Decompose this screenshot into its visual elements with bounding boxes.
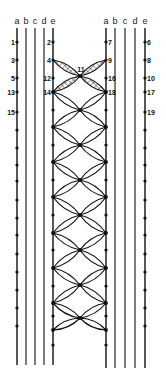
pin-dot (143, 179, 146, 182)
ground-petal (80, 180, 106, 197)
pin-dot (15, 163, 18, 166)
ground-pattern (53, 60, 106, 330)
pin-dot (51, 90, 55, 94)
pin-dot (51, 178, 54, 181)
pin-dot (104, 266, 108, 270)
thread-label: b (23, 16, 28, 26)
hatched-petal (53, 76, 80, 92)
pin-dot (51, 195, 55, 199)
pin-dot (143, 324, 146, 327)
pin-dot (143, 163, 146, 166)
ground-petal (80, 127, 106, 145)
pin-dot (15, 233, 18, 236)
pin-dot (15, 288, 18, 291)
pin-number: 4 (47, 57, 51, 64)
thread-label: e (50, 16, 55, 26)
ground-petal (53, 268, 80, 285)
ground-petal (53, 110, 80, 127)
pin-dot (78, 316, 82, 320)
pin-dot (51, 248, 54, 251)
ground-petal (80, 318, 106, 330)
pin-dot (78, 178, 82, 182)
pin-dot (143, 252, 146, 255)
pin-dot (15, 252, 18, 255)
ground-petal (80, 92, 106, 110)
pin-number: 9 (108, 57, 112, 64)
ground-petal (80, 110, 106, 127)
pin-dot (51, 213, 54, 216)
ground-petal (53, 162, 80, 180)
ground-petal (80, 233, 106, 250)
ground-petal (53, 197, 80, 215)
pin-number: 15 (7, 109, 15, 116)
pin-number: 6 (147, 39, 151, 46)
ground-petal (53, 127, 80, 145)
ground-petal (53, 92, 80, 110)
pin-dot (15, 90, 18, 93)
pin-dot (104, 301, 108, 305)
pin-number: 11 (77, 66, 85, 73)
thread-label: e (142, 16, 147, 26)
pin-dot (51, 284, 54, 287)
pin-dot (15, 40, 18, 43)
thread-label: c (123, 16, 128, 26)
ground-petal (53, 285, 80, 303)
pin-number: 13 (7, 89, 15, 96)
pin-number: 19 (147, 109, 155, 116)
pin-dot (51, 125, 55, 129)
ground-petal (80, 303, 106, 318)
pin-dot (104, 213, 107, 216)
ground-petal (80, 145, 106, 162)
pin-dot (78, 108, 82, 112)
pin-dot (51, 301, 55, 305)
labels: abcdeabcde13513152412147916186810171911 (7, 16, 155, 116)
pin-dot (15, 146, 18, 149)
pin-number: 17 (147, 89, 155, 96)
pin-dot (15, 58, 18, 61)
pin-dot (51, 143, 54, 146)
pin-dot (104, 195, 108, 199)
pin-dot (51, 40, 54, 43)
pin-dot (104, 160, 108, 164)
pin-dot (15, 306, 18, 309)
pin-number: 8 (147, 57, 151, 64)
pin-number: 5 (11, 75, 15, 82)
pin-dot (104, 231, 108, 235)
pin-dot (15, 179, 18, 182)
pin-dot (104, 314, 107, 317)
pin-dot (78, 283, 82, 287)
thread-label: d (132, 16, 137, 26)
pin-dot (143, 146, 146, 149)
pin-dot (143, 128, 146, 131)
ground-petal (80, 215, 106, 233)
pin-dot (143, 288, 146, 291)
pin-dot (104, 284, 107, 287)
hatched-petal (53, 60, 80, 76)
pin-dot (143, 233, 146, 236)
lace-pricking-diagram: abcdeabcde13513152412147916186810171911 (0, 0, 166, 375)
hatched-petal (80, 76, 106, 92)
pin-dot (104, 125, 108, 129)
thread-label: d (41, 16, 46, 26)
pin-dot (51, 108, 54, 111)
pin-dot (104, 343, 107, 346)
pin-dot (78, 74, 82, 78)
pin-dot (51, 160, 55, 164)
pin-dot (51, 76, 54, 79)
pin-dot (104, 143, 107, 146)
ground-petal (80, 268, 106, 285)
pin-dot (15, 270, 18, 273)
ground-petal (53, 250, 80, 268)
pin-dot (15, 76, 18, 79)
pin-dot (143, 198, 146, 201)
ground-petal (53, 303, 80, 318)
pin-number: 18 (108, 89, 116, 96)
pin-dot (104, 178, 107, 181)
pin-dot (51, 328, 55, 332)
thread-label: b (112, 16, 117, 26)
thread-label: a (103, 16, 108, 26)
pin-number: 12 (43, 75, 51, 82)
pin-number: 10 (147, 75, 155, 82)
ground-petal (53, 215, 80, 233)
pin-dot (15, 110, 18, 113)
